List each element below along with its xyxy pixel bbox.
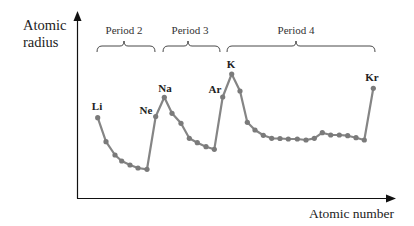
element-label-ar: Ar bbox=[209, 83, 222, 95]
data-point-si bbox=[187, 136, 192, 141]
data-point-b bbox=[112, 152, 117, 157]
data-point-kr bbox=[371, 86, 376, 91]
period-braces bbox=[97, 41, 375, 52]
x-axis-label: Atomic number bbox=[309, 206, 394, 222]
element-label-ne: Ne bbox=[140, 104, 153, 116]
data-point-cr bbox=[269, 136, 274, 141]
data-point-as bbox=[345, 133, 350, 138]
element-label-na: Na bbox=[158, 82, 171, 94]
data-point-ge bbox=[337, 132, 342, 137]
element-label-kr: Kr bbox=[365, 71, 378, 83]
data-point-o bbox=[135, 165, 140, 170]
y-axis-arrow-icon bbox=[74, 11, 82, 21]
element-label-li: Li bbox=[92, 100, 102, 112]
y-axis-label-line1: Atomic bbox=[23, 17, 67, 34]
data-point-n bbox=[127, 162, 132, 167]
x-axis-arrow-icon bbox=[386, 195, 396, 203]
series-line bbox=[98, 74, 374, 169]
data-point-li bbox=[95, 115, 100, 120]
brace-period-4 bbox=[227, 41, 375, 52]
data-point-se bbox=[353, 135, 358, 140]
data-point-p bbox=[195, 140, 200, 145]
y-axis-label: Atomic radius bbox=[23, 17, 67, 51]
data-point-cl bbox=[212, 147, 217, 152]
period-4-label: Period 4 bbox=[278, 24, 315, 36]
data-point-sc bbox=[245, 120, 250, 125]
brace-period-2 bbox=[97, 41, 155, 52]
series-markers bbox=[95, 71, 376, 171]
data-point-mn bbox=[277, 136, 282, 141]
data-point-ca bbox=[237, 88, 242, 93]
data-point-c bbox=[119, 158, 124, 163]
data-point-v bbox=[261, 133, 266, 138]
element-label-k: K bbox=[227, 58, 236, 70]
data-point-ne bbox=[153, 114, 158, 119]
period-3-label: Period 3 bbox=[172, 24, 209, 36]
data-point-na bbox=[162, 95, 167, 100]
data-point-k bbox=[229, 71, 234, 76]
data-point-cu bbox=[312, 136, 317, 141]
data-point-zn bbox=[320, 130, 325, 135]
data-point-mg bbox=[169, 111, 174, 116]
data-point-ni bbox=[303, 137, 308, 142]
axes bbox=[74, 11, 397, 203]
data-point-br bbox=[362, 137, 367, 142]
data-point-ga bbox=[328, 132, 333, 137]
period-2-label: Period 2 bbox=[106, 24, 143, 36]
data-point-co bbox=[295, 136, 300, 141]
data-point-be bbox=[103, 139, 108, 144]
data-series bbox=[95, 71, 376, 171]
data-point-s bbox=[203, 144, 208, 149]
y-axis-label-line2: radius bbox=[23, 34, 67, 51]
data-point-f bbox=[144, 167, 149, 172]
data-point-al bbox=[178, 121, 183, 126]
data-point-ti bbox=[252, 127, 257, 132]
brace-period-3 bbox=[163, 41, 220, 52]
data-point-ar bbox=[220, 94, 225, 99]
data-point-fe bbox=[286, 136, 291, 141]
